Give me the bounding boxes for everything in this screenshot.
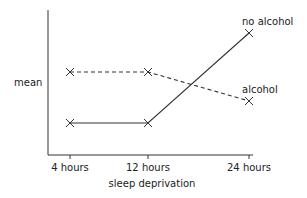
- interaction-line-chart: no alcohol alcohol mean 4 hours 12 hours…: [0, 0, 307, 198]
- series-no-alcohol-line: [70, 33, 249, 123]
- x-tick-label-12h: 12 hours: [126, 162, 170, 173]
- y-axis-label: mean: [14, 77, 42, 88]
- series-label-no-alcohol: no alcohol: [242, 16, 293, 27]
- series-alcohol-line: [70, 72, 249, 101]
- x-tick-label-4h: 4 hours: [51, 162, 89, 173]
- x-axis-label: sleep deprivation: [109, 178, 196, 189]
- series-label-alcohol: alcohol: [242, 84, 278, 95]
- x-tick-label-24h: 24 hours: [227, 162, 271, 173]
